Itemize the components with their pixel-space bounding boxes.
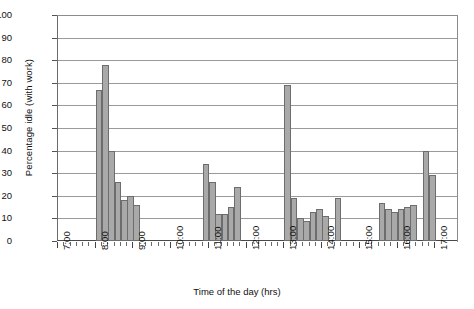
y-axis-tick-label: 40 (0, 146, 12, 155)
x-axis-tick-mark-minor (151, 242, 152, 246)
x-axis-tick-mark-minor (346, 242, 347, 246)
x-axis-tick-mark-minor (378, 242, 379, 246)
x-axis-tick-mark-minor (384, 242, 385, 246)
x-axis-tick-mark-major (57, 242, 58, 248)
x-axis-tick-mark-major (132, 242, 133, 248)
x-axis-tick-label: 10:00 (174, 226, 185, 250)
plot-frame-right (457, 15, 458, 242)
x-axis-title: Time of the day (hrs) (0, 286, 474, 297)
x-axis-tick-mark-minor (195, 242, 196, 246)
x-axis-tick-label: 9:00 (136, 231, 147, 250)
x-axis-tick-mark-major (283, 242, 284, 248)
x-axis-tick-mark-minor (114, 242, 115, 246)
x-axis-tick-mark-minor (390, 242, 391, 246)
x-axis-tick-mark-major (246, 242, 247, 248)
x-axis-tick-mark-minor (353, 242, 354, 246)
x-axis-tick-mark-major (397, 242, 398, 248)
x-axis-tick-mark-minor (415, 242, 416, 246)
x-axis-tick-label: 12:00 (250, 226, 261, 250)
x-axis-tick-label: 16:00 (401, 226, 412, 250)
x-axis-tick-label: 14:00 (325, 226, 336, 250)
y-axis-tick-label: 30 (0, 168, 12, 177)
bar-chart: Percentage idle (with work) 100908070605… (0, 0, 474, 309)
x-axis-tick-mark-minor (82, 242, 83, 246)
x-axis-tick-mark-minor (239, 242, 240, 246)
gridline (58, 105, 457, 106)
x-axis-tick-mark-minor (340, 242, 341, 246)
bar (234, 187, 241, 241)
x-axis-tick-mark-minor (233, 242, 234, 246)
x-axis-tick-mark-minor (271, 242, 272, 246)
x-axis-tick-mark-minor (88, 242, 89, 246)
x-axis-tick-mark-minor (120, 242, 121, 246)
y-axis-tick-label: 0 (0, 236, 12, 245)
x-axis-tick-mark-minor (202, 242, 203, 246)
gridline (58, 60, 457, 61)
x-axis-tick-label: 15:00 (363, 226, 374, 250)
x-axis-tick-label: 17:00 (438, 226, 449, 250)
x-axis-tick-mark-major (434, 242, 435, 248)
y-axis-tick-label: 50 (0, 123, 12, 132)
x-axis-tick-mark-minor (126, 242, 127, 246)
plot-frame-top (57, 15, 458, 16)
x-axis-tick-mark-minor (158, 242, 159, 246)
x-axis-tick-mark-minor (76, 242, 77, 246)
y-axis-tick-label: 20 (0, 191, 12, 200)
bar (429, 175, 436, 241)
y-axis-tick-label: 70 (0, 78, 12, 87)
x-axis-tick-label: 7:00 (61, 231, 72, 250)
gridline (58, 83, 457, 84)
x-axis-tick-mark-major (208, 242, 209, 248)
x-axis-tick-label: 11:00 (212, 226, 223, 250)
plot-area (57, 15, 457, 241)
x-axis-tick-mark-major (170, 242, 171, 248)
y-axis-title: Percentage idle (with work) (23, 33, 34, 203)
x-axis-tick-mark-minor (422, 242, 423, 246)
x-axis-tick-mark-minor (164, 242, 165, 246)
gridline (58, 151, 457, 152)
x-axis-tick-mark-major (321, 242, 322, 248)
x-axis-tick-mark-major (359, 242, 360, 248)
y-axis-tick-label: 100 (0, 10, 12, 19)
y-axis-tick-label: 10 (0, 213, 12, 222)
x-axis-tick-mark-minor (309, 242, 310, 246)
y-axis-tick-label: 90 (0, 33, 12, 42)
x-axis-tick-mark-major (95, 242, 96, 248)
x-axis-tick-mark-minor (428, 242, 429, 246)
x-axis-tick-mark-minor (265, 242, 266, 246)
x-axis-tick-mark-minor (189, 242, 190, 246)
gridline (58, 173, 457, 174)
x-axis-tick-mark-minor (302, 242, 303, 246)
x-axis-tick-mark-minor (227, 242, 228, 246)
x-axis-tick-label: 13:00 (287, 226, 298, 250)
x-axis-tick-label: 8:00 (99, 231, 110, 250)
gridline (58, 38, 457, 39)
y-axis-tick-label: 60 (0, 100, 12, 109)
gridline (58, 128, 457, 129)
x-axis-tick-mark-minor (315, 242, 316, 246)
x-axis-tick-mark-minor (277, 242, 278, 246)
y-axis-tick-label: 80 (0, 55, 12, 64)
